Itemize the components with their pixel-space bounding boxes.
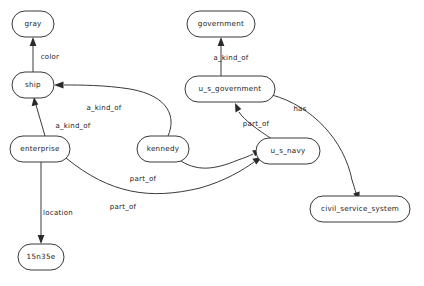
node-government[interactable]: government: [187, 11, 255, 37]
arrow-head-icon: [38, 235, 45, 244]
node-enterprise[interactable]: enterprise: [10, 136, 70, 162]
diagram-canvas: color a_kind_of a_kind_of a_kind_of: [0, 0, 424, 286]
node-u-s-government[interactable]: u_s_government: [185, 76, 275, 102]
node-label: u_s_navy: [271, 146, 306, 155]
node-u-s-navy[interactable]: u_s_navy: [256, 138, 320, 164]
arrow-head-icon: [218, 37, 225, 46]
node-label: 15n35e: [27, 252, 56, 261]
node-15n35e[interactable]: 15n35e: [18, 244, 64, 270]
edge-line: [66, 158, 254, 194]
node-label: government: [198, 19, 244, 28]
edge-enterprise-akindof-ship: a_kind_of: [32, 97, 91, 136]
semantic-network-graph: color a_kind_of a_kind_of a_kind_of: [0, 0, 424, 286]
edge-label: has: [293, 105, 306, 113]
edge-label: a_kind_of: [55, 122, 90, 130]
edge-ship-color-gray: color: [30, 37, 60, 72]
node-layer: gray government ship u_s_government ente…: [10, 11, 410, 270]
edge-usgovernment-akindof-government: a_kind_of: [213, 37, 248, 76]
node-ship[interactable]: ship: [12, 72, 54, 98]
arrow-head-icon: [30, 37, 37, 46]
node-civil-service-system[interactable]: civil_service_system: [310, 196, 410, 222]
node-label: civil_service_system: [321, 204, 399, 213]
node-label: u_s_government: [199, 84, 262, 93]
edge-line: [36, 105, 45, 136]
node-kennedy[interactable]: kennedy: [137, 136, 189, 162]
edge-label: a_kind_of: [213, 54, 248, 62]
edge-label: part_of: [130, 175, 157, 183]
edge-enterprise-partof-usnavy: part_of: [66, 157, 262, 211]
node-label: ship: [25, 80, 41, 89]
edge-label: location: [43, 209, 73, 217]
edge-label: color: [41, 53, 60, 61]
edge-line: [178, 154, 253, 168]
node-label: enterprise: [20, 144, 60, 153]
arrow-head-icon: [54, 82, 64, 89]
arrow-head-icon: [235, 103, 241, 113]
edge-label: part_of: [110, 203, 137, 211]
node-gray[interactable]: gray: [12, 11, 54, 37]
edge-usnavy-partof-usgovernment: part_of: [235, 103, 272, 139]
edge-label: part_of: [243, 120, 270, 128]
edge-enterprise-location-15n35e: location: [38, 162, 73, 244]
node-label: kennedy: [147, 144, 180, 153]
node-label: gray: [24, 19, 42, 28]
edge-label: a_kind_of: [86, 104, 121, 112]
